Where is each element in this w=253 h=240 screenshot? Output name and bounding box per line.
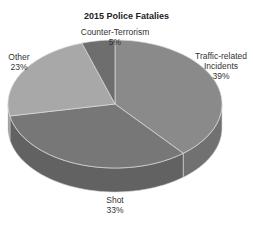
- label-traffic-pct: 39%: [188, 71, 253, 81]
- label-other: Other 23%: [2, 52, 36, 72]
- label-shot-pct: 33%: [90, 205, 140, 215]
- label-shot-name: Shot: [90, 195, 140, 205]
- label-traffic-name-2: Incidents: [188, 61, 253, 71]
- label-counter-terrorism: Counter-Terrorism 5%: [70, 27, 160, 47]
- label-traffic-name: Traffic-related: [188, 51, 253, 61]
- label-counter-terrorism-pct: 5%: [70, 37, 160, 47]
- label-other-name: Other: [2, 52, 36, 62]
- label-other-pct: 23%: [2, 62, 36, 72]
- label-traffic: Traffic-related Incidents 39%: [188, 51, 253, 81]
- label-counter-terrorism-name: Counter-Terrorism: [70, 27, 160, 37]
- label-shot: Shot 33%: [90, 195, 140, 215]
